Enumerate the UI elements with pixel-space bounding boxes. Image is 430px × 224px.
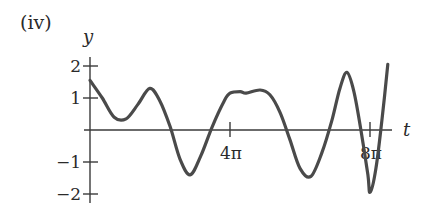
panel-label: (iv) bbox=[20, 11, 52, 33]
x-ticks: 4π8π bbox=[220, 122, 382, 163]
y-tick-label: 2 bbox=[70, 56, 81, 76]
chart-svg: (iv) y t 21−1−2 4π8π bbox=[0, 0, 430, 224]
x-tick-label: 4π bbox=[220, 143, 242, 163]
y-tick-label: −1 bbox=[56, 152, 81, 172]
data-curve bbox=[90, 64, 388, 192]
y-tick-label: −2 bbox=[56, 184, 81, 204]
y-axis-label: y bbox=[82, 26, 94, 47]
y-tick-label: 1 bbox=[70, 88, 81, 108]
chart-container: (iv) y t 21−1−2 4π8π bbox=[0, 0, 430, 224]
x-axis-label: t bbox=[403, 119, 411, 140]
